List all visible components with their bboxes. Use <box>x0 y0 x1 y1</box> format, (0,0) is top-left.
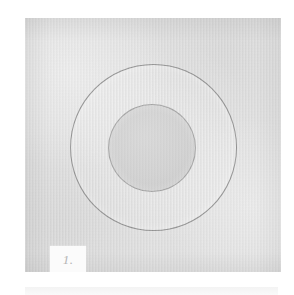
next-plate-band <box>25 287 278 295</box>
page-canvas: 1. <box>0 0 294 295</box>
figure-number-label: 1. <box>63 253 74 266</box>
figure-number-box: 1. <box>50 246 86 272</box>
inner-circle <box>108 104 196 192</box>
plate-panel: 1. <box>25 18 281 272</box>
